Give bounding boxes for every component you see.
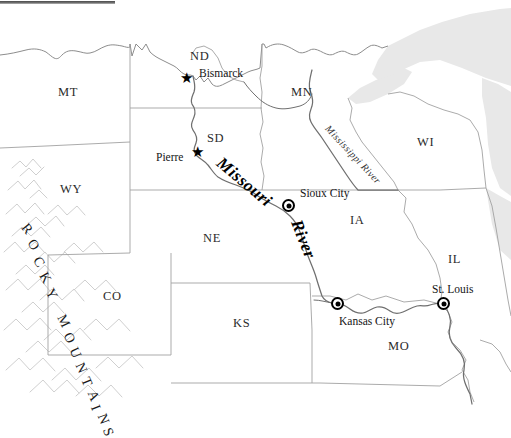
border-wi-north — [388, 92, 470, 120]
border-mn-wi — [348, 98, 398, 190]
border-wi-east — [470, 120, 486, 188]
capital-star-pierre[interactable]: ★ — [191, 145, 204, 160]
mountain-label-glyph-14: S — [100, 426, 116, 438]
city-dot-kansas-city[interactable] — [331, 297, 344, 310]
border-bottom-right-sliver — [480, 340, 511, 372]
lake-michigan-shape — [482, 78, 511, 196]
border-mo-il — [440, 304, 474, 402]
minnesota-river-tributary — [244, 82, 312, 109]
mississippi-lower-path — [443, 303, 472, 404]
rocky-mountain-hachures — [4, 159, 143, 397]
border-ks-mo — [310, 283, 312, 383]
border-wy-co — [48, 253, 130, 255]
state-borders — [0, 44, 511, 402]
city-dot-st-louis[interactable] — [437, 297, 450, 310]
border-sd-mn — [260, 108, 264, 190]
border-ia-il — [398, 190, 442, 304]
rivers — [191, 70, 472, 404]
border-mo-south — [320, 372, 462, 386]
capital-star-bismarck[interactable]: ★ — [180, 71, 193, 86]
mountain-label-glyph-13: N — [95, 412, 112, 426]
city-dot-sioux-city[interactable] — [282, 199, 295, 212]
lake-superior-shape — [372, 8, 511, 86]
kansas-river-stub — [314, 300, 332, 303]
border-mt-wy — [0, 142, 130, 148]
missouri-river-path — [191, 76, 443, 313]
border-wi-il — [398, 188, 486, 190]
